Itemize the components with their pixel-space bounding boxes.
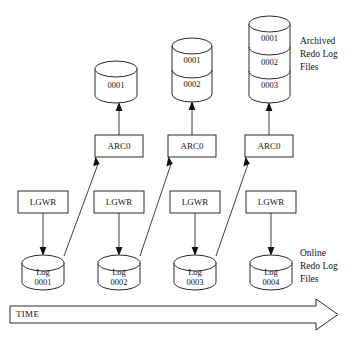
online-log-2-label-line-1: Log (112, 267, 126, 277)
arrow-log-3-to-arc0-3 (216, 157, 250, 257)
arc0-process-3[interactable]: ARC0 (245, 135, 293, 157)
online-log-3-label-line-1: Log (188, 267, 202, 277)
arc0-process-2[interactable]: ARC0 (168, 135, 216, 157)
online-log-4: Log 0004 (250, 255, 292, 290)
online-log-3: Log 0003 (174, 255, 216, 290)
archived-stack-2-segment-2-label: 0002 (184, 79, 201, 89)
online-log-4-label-line-2: 0004 (263, 277, 281, 287)
arc0-process-3-label: ARC0 (257, 141, 281, 151)
archived-label-line-1: Archived (300, 36, 336, 46)
online-log-1: Log 0001 (22, 255, 64, 290)
archived-stack-3-segment-3-label: 0003 (261, 80, 278, 90)
online-label-line-2: Redo Log (300, 261, 338, 271)
arrow-lgwr-2-to-log-2 (116, 213, 123, 256)
arrow-arc0-3-to-archived-3 (266, 102, 273, 135)
lgwr-process-2[interactable]: LGWR (94, 191, 144, 213)
arc0-process-1[interactable]: ARC0 (95, 135, 143, 157)
arc0-process-2-label: ARC0 (180, 141, 204, 151)
archived-redo-log-files-label: Archived Redo Log Files (300, 36, 338, 72)
lgwr-process-3-label: LGWR (182, 197, 209, 207)
archived-stack-3: 0001 0002 0003 (249, 16, 290, 103)
redo-log-archiving-diagram: 0001 0001 0002 0001 0002 0003 Archived R… (0, 0, 360, 337)
arrow-lgwr-3-to-log-3 (192, 213, 199, 256)
lgwr-process-1-label: LGWR (30, 197, 57, 207)
archived-stack-3-segment-1-label: 0001 (261, 33, 278, 43)
diagram-canvas: 0001 0001 0002 0001 0002 0003 Archived R… (0, 0, 360, 337)
lgwr-process-2-label: LGWR (106, 197, 133, 207)
online-log-2-label-line-2: 0002 (111, 277, 128, 287)
archived-stack-2: 0001 0002 (172, 38, 212, 102)
arrow-arc0-1-to-archived-1 (116, 102, 123, 135)
archived-label-line-3: Files (300, 62, 319, 72)
online-log-2: Log 0002 (98, 255, 140, 290)
arrow-lgwr-1-to-log-1 (40, 213, 47, 256)
archived-stack-1-segment-1-label: 0001 (108, 80, 125, 90)
online-label-line-3: Files (300, 274, 319, 284)
online-log-3-label-line-2: 0003 (187, 277, 204, 287)
lgwr-process-4-label: LGWR (258, 197, 285, 207)
online-log-1-label-line-2: 0001 (35, 277, 52, 287)
archived-stack-2-segment-1-label: 0001 (184, 55, 201, 65)
archived-stack-3-segment-2-label: 0002 (261, 57, 278, 67)
lgwr-process-1[interactable]: LGWR (18, 191, 68, 213)
online-label-line-1: Online (300, 248, 326, 258)
online-log-1-label-line-1: Log (36, 267, 50, 277)
lgwr-process-4[interactable]: LGWR (246, 191, 296, 213)
arrow-lgwr-4-to-log-4 (268, 213, 275, 256)
arc0-process-1-label: ARC0 (107, 141, 131, 151)
online-redo-log-files-label: Online Redo Log Files (300, 248, 338, 284)
time-axis-arrow: TIME (10, 299, 338, 330)
arrow-log-2-to-arc0-2 (140, 157, 173, 257)
archived-stack-1: 0001 (95, 61, 137, 103)
time-axis-label: TIME (16, 309, 39, 319)
online-log-4-label-line-1: Log (264, 267, 278, 277)
arrow-arc0-2-to-archived-2 (189, 101, 196, 135)
lgwr-process-3[interactable]: LGWR (170, 191, 220, 213)
archived-label-line-2: Redo Log (300, 49, 338, 59)
